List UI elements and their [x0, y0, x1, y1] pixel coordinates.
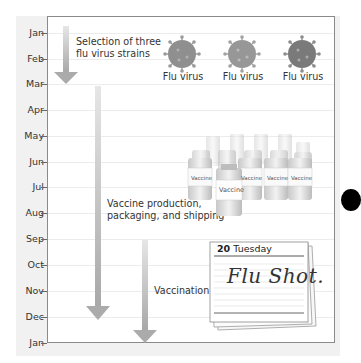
calendar-weekday: Tuesday: [233, 243, 272, 254]
stage-vaccination-label: Vaccination: [154, 285, 209, 297]
svg-text:Vaccine: Vaccine: [219, 186, 244, 194]
stage-label-line: Vaccination: [154, 285, 209, 297]
virus-label: Flu virus: [218, 71, 268, 82]
flu-virus-icon: [160, 36, 204, 72]
stage-selection-label: Selection of three flu virus strains: [76, 36, 161, 60]
virus-label: Flu virus: [158, 71, 208, 82]
svg-text:Vaccine: Vaccine: [191, 175, 213, 181]
flu-virus-icon: [220, 36, 264, 72]
virus-label: Flu virus: [278, 71, 328, 82]
svg-text:Vaccine: Vaccine: [267, 175, 289, 181]
marker-dot: [341, 189, 361, 211]
svg-text:Vaccine: Vaccine: [291, 175, 313, 181]
stage-label-line: Selection of three: [76, 36, 161, 48]
calendar-day: 20: [217, 243, 230, 254]
vaccine-bottles-icon: Vaccine Vaccine Vaccine Vaccine Vaccine: [188, 128, 318, 218]
flu-virus-icon: [280, 36, 324, 72]
calendar-date: 20 Tuesday: [217, 243, 272, 254]
stage-label-line: flu virus strains: [76, 48, 161, 60]
svg-text:Vaccine: Vaccine: [241, 175, 263, 181]
calendar-note: Flu Shot.: [227, 264, 324, 288]
